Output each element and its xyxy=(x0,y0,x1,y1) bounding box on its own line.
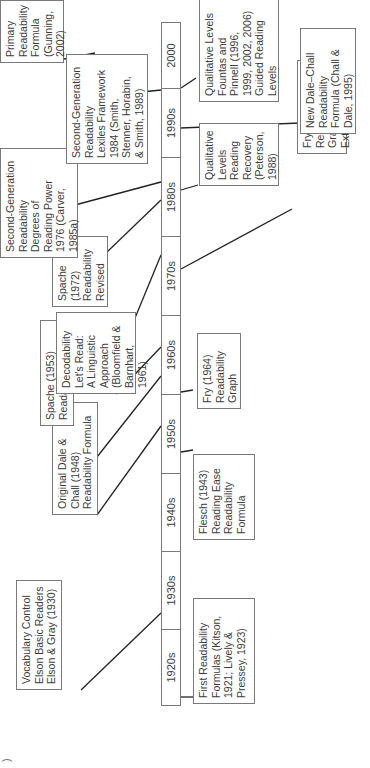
event-new-dale-chall: New Dale–Chall Readability Formula (Chal… xyxy=(300,28,356,134)
connector-original-dale-chall-a xyxy=(97,426,161,515)
decade-1970s: 1970s xyxy=(162,236,180,315)
event-reading-recovery: Qualitative Levels Reading Recovery (Pet… xyxy=(199,123,279,186)
connector-fry-1977 xyxy=(181,209,292,269)
event-vocabulary-control: Vocabulary Control Elson Basic Readers E… xyxy=(16,580,62,690)
decade-1990s: 1990s xyxy=(162,88,180,157)
event-decodability: Decodability Let's Read: A Linguistic Ap… xyxy=(56,312,136,394)
connector-reading-recovery xyxy=(181,185,198,190)
event-fry-1964: Fry (1964) Readability Graph xyxy=(197,333,241,409)
decade-1950s: 1950s xyxy=(162,394,180,473)
corner-glyph: ) xyxy=(0,758,12,762)
decade-1960s: 1960s xyxy=(162,315,180,394)
connector-vocabulary-control xyxy=(81,613,161,690)
event-first-readability: First Readability Formulas (Kitson, 1921… xyxy=(193,598,255,704)
readability-timeline-diagram: 1920s 1930s 1940s 1950s 1960s 1970s 1980… xyxy=(0,0,370,768)
decade-1940s: 1940s xyxy=(162,473,180,551)
timeline-bar: 1920s 1930s 1940s 1950s 1960s 1970s 1980… xyxy=(161,22,181,706)
connector-decodability-b xyxy=(135,255,161,318)
connector-flesch xyxy=(181,450,193,452)
event-fountas-pinnell: Qualitative Levels Fountas and Pinnell (… xyxy=(199,0,279,102)
connector-fry-1964 xyxy=(181,390,193,392)
decade-1980s: 1980s xyxy=(162,157,180,236)
event-primary-readability: Primary Readability Formula (Gunning, 20… xyxy=(0,0,64,63)
event-lexiles: Second-Generation Readability Lexiles Fr… xyxy=(66,54,148,164)
event-flesch: Flesch (1943) Reading Ease Readability F… xyxy=(193,454,255,540)
decade-1930s: 1930s xyxy=(162,551,180,629)
decade-2000: 2000 xyxy=(162,23,180,88)
connector-fountas-pinnell xyxy=(181,78,196,88)
event-degrees-reading-power: Second-Generation Readability Degrees of… xyxy=(0,148,78,258)
connector-degrees-reading-power xyxy=(75,182,161,205)
decade-1920s: 1920s xyxy=(162,629,180,705)
